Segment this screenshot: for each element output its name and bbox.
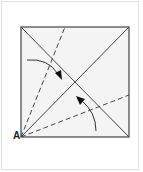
fold-diagram — [0, 0, 143, 172]
corner-label-a: A — [13, 130, 20, 141]
